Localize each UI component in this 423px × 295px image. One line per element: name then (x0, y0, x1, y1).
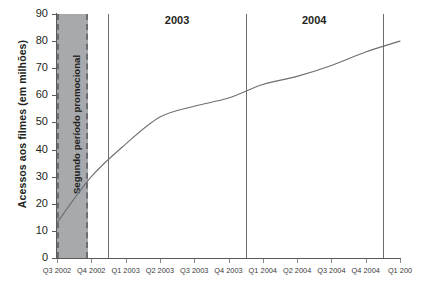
chart-container: Acessos aos filmes (em milhões) Segundo … (0, 0, 423, 295)
series-line-layer (0, 0, 423, 295)
series-line-acessos (57, 41, 400, 223)
